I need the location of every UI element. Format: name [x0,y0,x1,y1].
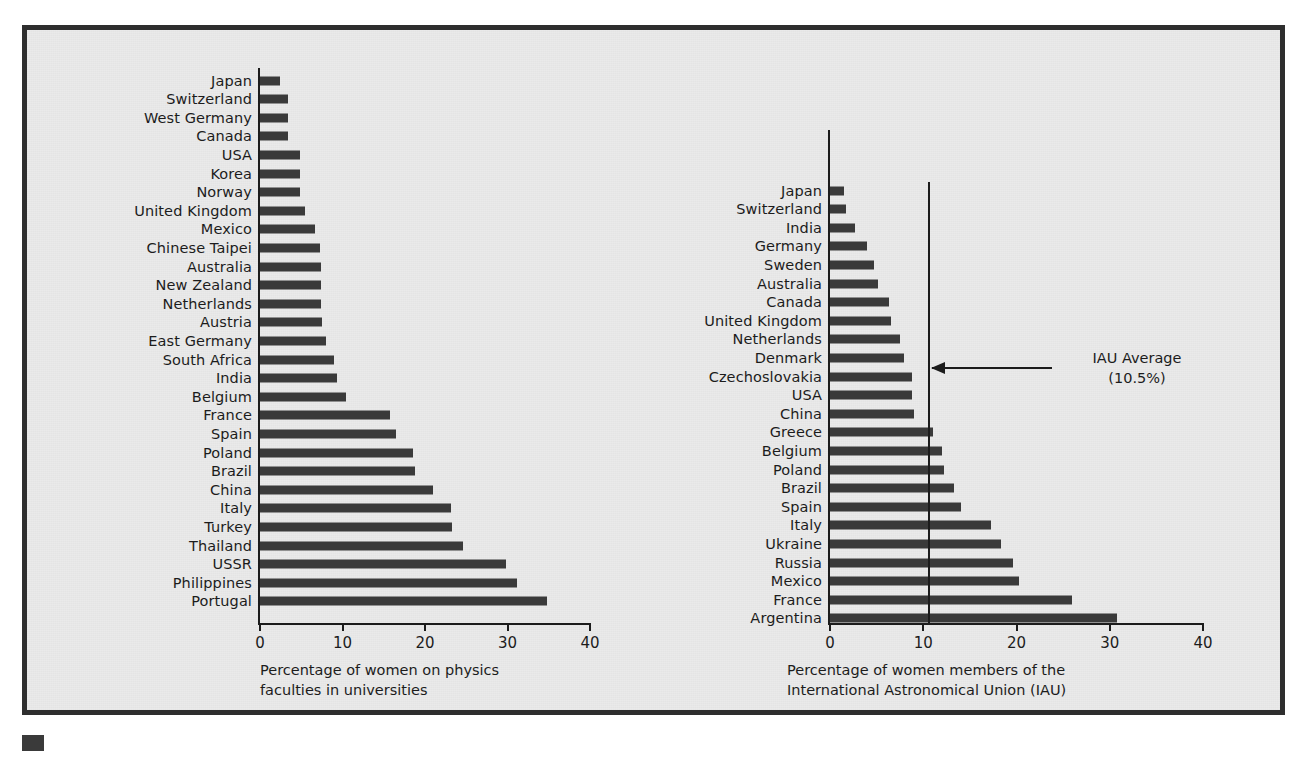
bar-row: Ukraine [830,535,1203,552]
bar-row: USA [260,146,590,163]
y-axis-iau-members [828,130,830,623]
x-tick-label: 10 [333,634,352,652]
x-tick-label: 0 [255,634,265,652]
bar-category-label: Poland [773,462,822,478]
bar-category-label: United Kingdom [134,203,252,219]
bar-category-label: Turkey [204,519,252,535]
bar-rect [260,225,315,234]
bar-row: USA [830,387,1203,404]
x-tick-label: 10 [914,634,933,652]
bar-row: Netherlands [260,295,590,312]
plot-area-iau-members: JapanSwitzerlandIndiaGermanySwedenAustra… [830,130,1203,623]
figure-corner-marker [22,735,44,751]
bar-row: Austria [260,314,590,331]
bar-category-label: South Africa [163,352,252,368]
bar-rect [830,298,889,307]
x-tick [259,623,261,631]
bar-rect [260,560,506,569]
bar-row: Australia [830,275,1203,292]
bar-category-label: Belgium [192,389,252,405]
bar-category-label: Denmark [755,350,822,366]
x-tick [1016,623,1018,631]
bar-category-label: USSR [213,556,253,572]
bar-rect [830,502,961,511]
bar-row: Canada [830,294,1203,311]
caption-physics-faculties: Percentage of women on physics faculties… [260,660,580,700]
bar-category-label: USA [222,147,252,163]
bar-row: Mexico [830,573,1203,590]
bar-category-label: Norway [196,184,252,200]
figure-frame: JapanSwitzerlandWest GermanyCanadaUSAKor… [22,25,1285,715]
bar-category-label: Argentina [750,610,822,626]
bar-row: France [830,591,1203,608]
bar-rect [830,353,904,362]
bar-row: Italy [830,517,1203,534]
bar-rect [830,558,1013,567]
bar-category-label: United Kingdom [704,313,822,329]
bar-rect [830,205,846,214]
bar-row: Germany [830,238,1203,255]
bar-rect [260,188,300,197]
iau-average-line [928,182,930,623]
bar-row: South Africa [260,351,590,368]
bar-category-label: Austria [200,314,252,330]
bar-rect [260,411,390,420]
bar-row: Thailand [260,537,590,554]
x-tick [1202,623,1204,631]
bar-category-label: Australia [757,276,822,292]
bar-rect [830,428,933,437]
bar-category-label: USA [792,387,822,403]
x-tick-label: 20 [1007,634,1026,652]
bar-rect [260,374,337,383]
bar-category-label: Philippines [173,575,252,591]
bar-category-label: Canada [196,128,252,144]
bar-row: France [260,407,590,424]
bar-rect [260,429,396,438]
bar-category-label: France [203,407,252,423]
bar-row: India [260,370,590,387]
bar-rect [830,465,944,474]
bar-row: Australia [260,258,590,275]
bar-row: Mexico [260,221,590,238]
plot-area-physics-faculties: JapanSwitzerlandWest GermanyCanadaUSAKor… [260,68,590,623]
bar-rect [260,578,517,587]
bar-rect [260,541,463,550]
bar-rect [830,539,1001,548]
bar-category-label: Belgium [762,443,822,459]
bar-row: West Germany [260,109,590,126]
bar-rect [260,299,321,308]
bar-row: Chinese Taipei [260,239,590,256]
bar-rect [830,409,914,418]
bar-category-label: Mexico [201,221,252,237]
bar-rect [830,316,891,325]
bar-row: India [830,219,1203,236]
bar-row: Poland [260,444,590,461]
bar-row: Brazil [830,480,1203,497]
bar-row: Belgium [830,442,1203,459]
bar-rect [260,448,413,457]
bar-category-label: Thailand [189,538,252,554]
bar-category-label: West Germany [144,110,252,126]
bar-category-label: France [773,592,822,608]
bar-row: China [830,405,1203,422]
bar-rect [260,132,288,141]
bar-category-label: Portugal [191,593,252,609]
bar-category-label: East Germany [148,333,252,349]
bar-rect [830,372,912,381]
bar-rect [830,614,1117,623]
bar-category-label: Spain [211,426,252,442]
bar-rect [260,262,321,271]
bar-rect [830,577,1019,586]
bar-row: United Kingdom [830,312,1203,329]
bar-rect [260,113,288,122]
bar-category-label: Czechoslovakia [709,369,822,385]
bar-category-label: Poland [203,445,252,461]
bar-row: Japan [260,72,590,89]
bar-rect [830,242,867,251]
bar-rect [260,522,452,531]
bar-category-label: Korea [210,166,252,182]
bar-rect [260,243,320,252]
bar-category-label: Netherlands [163,296,253,312]
bar-row: East Germany [260,332,590,349]
bar-category-label: Switzerland [166,91,252,107]
